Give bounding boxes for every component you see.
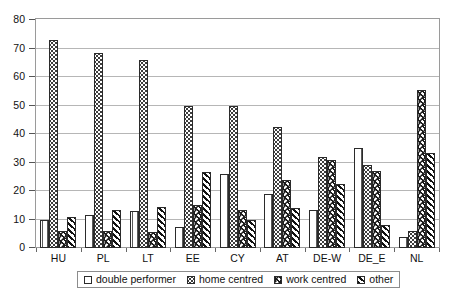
y-tick-mark [29,247,35,248]
bar-group-lt [126,19,171,248]
y-tick-label: 40 [13,127,25,139]
x-tick-label-de-w: DE-W [305,250,350,266]
bar-chart: 01020304050607080 HUPLLTEECYATDE-WDE_ENL… [0,0,450,295]
y-tick-mark [29,162,35,163]
legend-label: other [369,274,393,285]
bar-hu-other [67,217,76,248]
bar-cy-other [247,220,256,249]
y-tick-mark [29,76,35,77]
y-tick-mark [29,105,35,106]
bar-lt-double-performer [130,211,139,248]
y-tick-label: 70 [13,42,25,54]
bar-group-at [260,19,305,248]
bar-cy-home-centred [229,106,238,249]
y-tick-label: 10 [13,213,25,225]
bar-ee-double-performer [175,227,184,248]
bar-group-ee [170,19,215,248]
bar-de-e-double-performer [354,148,363,248]
bar-at-other [291,208,300,248]
x-tick-mark [126,248,127,252]
bar-groups [36,19,439,248]
y-tick-mark [29,48,35,49]
legend-item-other[interactable]: other [357,274,393,285]
bar-lt-work-centred [148,232,157,248]
bar-ee-home-centred [184,106,193,249]
x-tick-mark [170,248,171,252]
legend-item-work-centred[interactable]: work centred [274,274,346,285]
y-tick-label: 80 [13,13,25,25]
bar-cy-work-centred [238,210,247,248]
legend-item-home-centred[interactable]: home centred [187,274,263,285]
y-tick-label: 60 [13,70,25,82]
bar-ee-work-centred [193,205,202,248]
bar-at-home-centred [273,127,282,248]
x-tick-mark [394,248,395,252]
x-tick-mark [260,248,261,252]
y-tick-mark [29,133,35,134]
bar-group-hu [36,19,81,248]
legend-swatch-icon [274,276,282,284]
y-tick-mark [29,190,35,191]
x-tick-mark [215,248,216,252]
bar-nl-double-performer [399,237,408,248]
bar-ee-other [202,172,211,248]
bar-de-w-double-performer [309,210,318,248]
x-tick-label-pl: PL [81,250,126,266]
y-tick-label: 0 [19,241,25,253]
x-tick-label-nl: NL [394,250,439,266]
bar-nl-work-centred [417,90,426,248]
legend-swatch-icon [357,276,365,284]
bar-group-de-e [349,19,394,248]
bar-de-w-work-centred [327,160,336,248]
x-axis-labels: HUPLLTEECYATDE-WDE_ENL [36,250,439,266]
bar-de-e-home-centred [363,165,372,248]
bar-group-de-w [305,19,350,248]
bar-pl-work-centred [103,231,112,248]
y-tick-label: 50 [13,99,25,111]
bar-hu-double-performer [40,220,49,249]
legend-label: work centred [286,274,346,285]
x-tick-label-cy: CY [215,250,260,266]
y-tick-mark [29,219,35,220]
bar-group-nl [394,19,439,248]
legend-label: home centred [199,274,263,285]
bar-lt-other [157,207,166,248]
bar-group-pl [81,19,126,248]
bar-nl-home-centred [408,231,417,248]
legend-swatch-icon [187,276,195,284]
x-tick-label-hu: HU [36,250,81,266]
bar-at-double-performer [264,194,273,248]
y-tick-label: 20 [13,184,25,196]
bar-hu-work-centred [58,231,67,248]
bar-lt-home-centred [139,60,148,248]
y-tick-label: 30 [13,156,25,168]
bar-de-w-home-centred [318,157,327,248]
bar-pl-double-performer [85,215,94,248]
bar-de-e-work-centred [372,171,381,248]
x-tick-mark [36,248,37,252]
x-tick-mark [439,248,440,252]
y-axis: 01020304050607080 [0,18,31,248]
x-tick-label-ee: EE [170,250,215,266]
chart-legend: double performerhome centredwork centred… [77,271,400,288]
legend-item-double-performer[interactable]: double performer [84,274,176,285]
legend-swatch-icon [84,276,92,284]
bar-group-cy [215,19,260,248]
x-tick-mark [305,248,306,252]
x-tick-label-de-e: DE_E [349,250,394,266]
x-tick-label-lt: LT [126,250,171,266]
bar-pl-home-centred [94,53,103,248]
bar-de-e-other [381,225,390,248]
bar-pl-other [112,210,121,248]
bar-cy-double-performer [220,174,229,248]
x-tick-mark [349,248,350,252]
bar-nl-other [426,153,435,248]
bar-at-work-centred [282,180,291,248]
x-tick-label-at: AT [260,250,305,266]
legend-label: double performer [96,274,176,285]
y-tick-mark [29,19,35,20]
bar-de-w-other [336,184,345,248]
bar-hu-home-centred [49,40,58,248]
x-tick-mark [81,248,82,252]
